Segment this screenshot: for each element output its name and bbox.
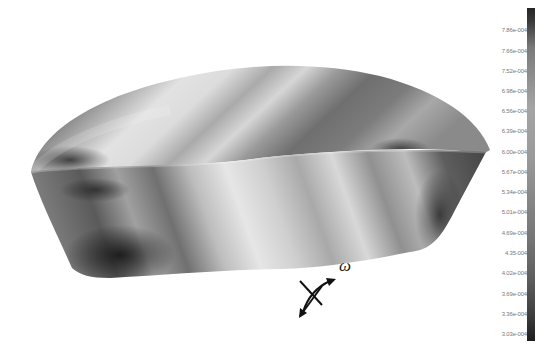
colorbar — [527, 8, 535, 341]
colorbar-tick-label: 3.03e-004 — [502, 331, 527, 337]
colorbar-tick-label: 6.39e-004 — [502, 128, 527, 134]
omega-axis-label: ω — [339, 256, 351, 276]
colorbar-tick-label: 6.98e-004 — [502, 88, 527, 94]
colorbar-tick-label: 7.66e-004 — [502, 48, 527, 54]
surface-outer-wall — [31, 150, 486, 285]
colorbar-tick-label: 5.34e-004 — [502, 189, 527, 195]
surface-plot — [0, 0, 520, 349]
arrowhead-icon — [326, 278, 336, 286]
colorbar-tick-label: 7.86e-004 — [502, 27, 527, 33]
colorbar-tick-label: 7.52e-004 — [502, 68, 527, 74]
colorbar-tick-label: 6.56e-004 — [502, 108, 527, 114]
axis-indicator — [299, 278, 336, 318]
colorbar-tick-label: 3.36e-004 — [502, 311, 527, 317]
colorbar-tick-label: 6.00e-004 — [502, 149, 527, 155]
colorbar-tick-label: 5.67e-004 — [502, 169, 527, 175]
colorbar-tick-label: 5.01e-004 — [502, 209, 527, 215]
colorbar-tick-label: 4.35-004 — [505, 250, 527, 256]
colorbar-tick-label: 3.69e-004 — [502, 291, 527, 297]
colorbar-tick-label: 4.69e-004 — [502, 230, 527, 236]
colorbar-tick-label: 4.02e-004 — [502, 270, 527, 276]
